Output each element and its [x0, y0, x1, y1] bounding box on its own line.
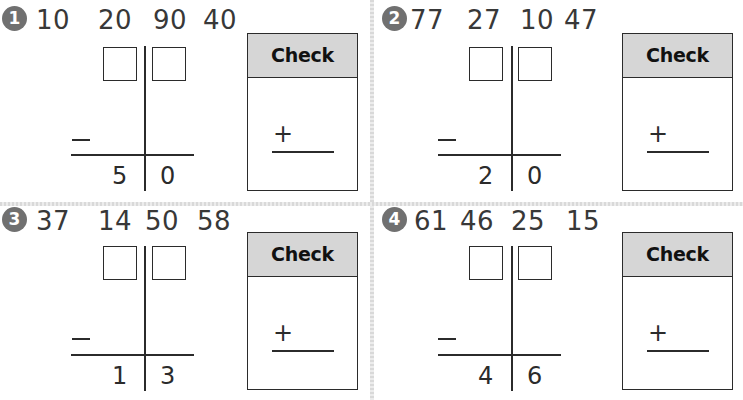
choice-number[interactable]: 58: [197, 204, 231, 238]
choice-number[interactable]: 77: [410, 3, 444, 37]
ones-answer-box[interactable]: [518, 246, 552, 280]
place-value-divider: [511, 246, 513, 391]
choice-number[interactable]: 37: [36, 204, 70, 238]
check-header: Check: [623, 233, 732, 277]
place-value-divider: [144, 46, 146, 191]
place-value-divider: [511, 46, 513, 191]
difference-ones: 0: [527, 161, 542, 191]
difference-tens: 5: [112, 161, 127, 191]
problem-1: 1 10 20 90 40 5 0 Check +: [0, 0, 371, 200]
problem-2: 2 77 27 10 47 2 0 Check +: [372, 0, 743, 200]
minus-sign-icon: [72, 139, 90, 141]
choice-number[interactable]: 47: [564, 3, 598, 37]
choice-number[interactable]: 46: [460, 204, 494, 238]
minus-sign-icon: [438, 139, 456, 141]
tens-answer-box[interactable]: [469, 47, 503, 81]
check-header: Check: [248, 233, 357, 277]
choice-number[interactable]: 25: [511, 204, 545, 238]
sum-line: [438, 154, 561, 156]
sum-line: [438, 354, 561, 356]
ones-answer-box[interactable]: [152, 246, 186, 280]
problem-3: 3 37 14 50 58 1 3 Check +: [0, 204, 371, 400]
tens-answer-box[interactable]: [103, 246, 137, 280]
choice-number[interactable]: 61: [414, 204, 448, 238]
tens-answer-box[interactable]: [469, 246, 503, 280]
minus-sign-icon: [438, 338, 456, 340]
plus-sign-icon: +: [648, 122, 668, 146]
choice-number[interactable]: 10: [36, 3, 70, 37]
problem-4: 4 61 46 25 15 4 6 Check +: [372, 204, 743, 400]
problem-number-badge: 2: [382, 6, 407, 31]
check-header: Check: [623, 34, 732, 78]
check-sum-line: [272, 350, 334, 352]
difference-ones: 6: [527, 361, 542, 391]
difference-tens: 4: [478, 361, 493, 391]
check-box[interactable]: Check +: [247, 232, 358, 390]
choice-number[interactable]: 27: [467, 3, 501, 37]
tens-answer-box[interactable]: [103, 47, 137, 81]
ones-answer-box[interactable]: [152, 47, 186, 81]
check-sum-line: [272, 151, 334, 153]
difference-tens: 1: [112, 361, 127, 391]
problem-number-badge: 4: [382, 207, 407, 232]
sum-line: [71, 354, 194, 356]
ones-answer-box[interactable]: [518, 47, 552, 81]
choice-number[interactable]: 40: [203, 3, 237, 37]
check-sum-line: [647, 350, 709, 352]
difference-ones: 0: [160, 161, 175, 191]
difference-ones: 3: [160, 361, 175, 391]
problem-number-badge: 3: [2, 207, 27, 232]
choice-number[interactable]: 14: [98, 204, 132, 238]
check-box[interactable]: Check +: [622, 232, 733, 390]
check-box[interactable]: Check +: [622, 33, 733, 191]
choice-number[interactable]: 20: [98, 3, 132, 37]
difference-tens: 2: [478, 161, 493, 191]
plus-sign-icon: +: [273, 321, 293, 345]
problem-number-badge: 1: [2, 6, 27, 31]
check-header: Check: [248, 34, 357, 78]
choice-number[interactable]: 10: [520, 3, 554, 37]
minus-sign-icon: [72, 338, 90, 340]
plus-sign-icon: +: [648, 321, 668, 345]
sum-line: [71, 154, 194, 156]
choice-number[interactable]: 50: [145, 204, 179, 238]
choice-number[interactable]: 15: [566, 204, 600, 238]
plus-sign-icon: +: [273, 122, 293, 146]
check-sum-line: [647, 151, 709, 153]
place-value-divider: [144, 246, 146, 391]
check-box[interactable]: Check +: [247, 33, 358, 191]
choice-number[interactable]: 90: [153, 3, 187, 37]
